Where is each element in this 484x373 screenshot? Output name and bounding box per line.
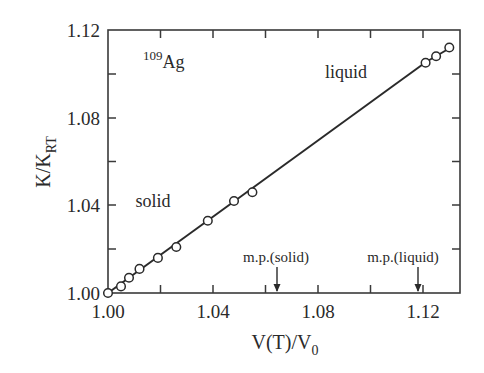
x-tick-label: 1.12 <box>406 301 439 322</box>
mp-liquid-label: m.p.(liquid) <box>367 249 439 266</box>
data-point <box>432 52 441 61</box>
svg-text:K/KRT: K/KRT <box>32 136 59 188</box>
mp-liquid-arrow-icon <box>415 267 422 292</box>
y-tick-label: 1.12 <box>67 20 100 41</box>
y-axis-ticks-right <box>452 74 460 249</box>
isotope-element: Ag <box>163 52 185 72</box>
x-axis-title-main: V(T)/V <box>252 331 313 354</box>
mp-solid-label: m.p.(solid) <box>243 249 309 266</box>
x-tick-label: 1.00 <box>91 301 124 322</box>
mp-solid-arrow-icon <box>274 267 281 292</box>
data-point <box>204 216 213 225</box>
x-tick-label: 1.04 <box>196 301 230 322</box>
y-axis-title-sub: RT <box>44 136 59 153</box>
solid-region-label: solid <box>135 191 170 211</box>
liquid-region-label: liquid <box>325 62 367 82</box>
x-axis-ticks-bottom <box>161 285 424 293</box>
data-point <box>445 43 454 52</box>
data-point <box>117 282 126 291</box>
x-axis-title-sub: 0 <box>311 343 318 358</box>
data-point <box>421 59 430 68</box>
y-axis-title: K/KRT <box>32 136 59 188</box>
data-point <box>248 188 257 197</box>
isotope-mass-superscript: 109 <box>143 48 163 63</box>
data-point <box>172 243 181 252</box>
data-point <box>125 273 134 282</box>
data-point <box>104 289 113 298</box>
y-axis-title-main: K/K <box>32 153 54 188</box>
data-point <box>154 254 163 263</box>
chart: 1.00 1.04 1.08 1.12 1.00 1.04 1.08 1.12 … <box>0 0 484 373</box>
x-tick-label: 1.08 <box>301 301 334 322</box>
y-axis-ticks-left <box>108 74 116 249</box>
data-point <box>230 197 239 206</box>
x-axis-ticks-top <box>161 30 424 38</box>
data-point <box>135 265 144 274</box>
y-tick-label: 1.04 <box>67 195 101 216</box>
y-tick-label: 1.08 <box>67 108 100 129</box>
x-axis-title: V(T)/V0 <box>252 331 319 358</box>
isotope-label: 109Ag <box>143 48 185 72</box>
